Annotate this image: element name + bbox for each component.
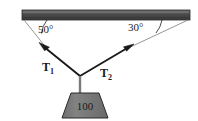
tension-2-label-sub: 2 (108, 73, 112, 82)
tension-2-label-main: T (100, 66, 108, 80)
tension-2-label: T 2 (100, 66, 112, 82)
weight-label: 100 (77, 100, 94, 112)
hanging-weight: 100 (62, 93, 108, 118)
ceiling-beam (22, 10, 190, 20)
angle-arcs-group (42, 20, 163, 34)
angle-arc-right (156, 20, 162, 33)
diagram-canvas: 50° 30° T 1 T 2 100 (0, 0, 198, 121)
tension-1-label: T 1 (42, 60, 54, 76)
tension-1-label-sub: 1 (50, 67, 54, 76)
ceiling-beam-body (22, 10, 190, 20)
tension-1-label-main: T (42, 60, 50, 74)
angle-label-right: 30° (128, 21, 143, 33)
force-diagram-figure: 50° 30° T 1 T 2 100 (0, 0, 198, 121)
angle-label-left: 50° (38, 23, 53, 35)
